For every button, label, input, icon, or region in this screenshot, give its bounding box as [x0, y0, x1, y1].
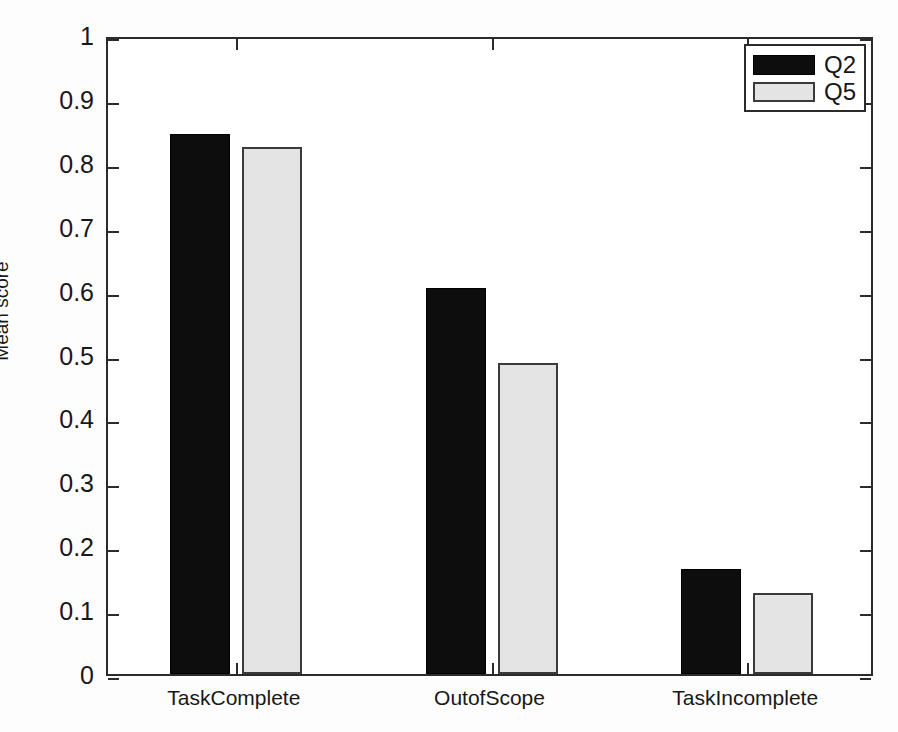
y-tick-label: 0.1: [0, 599, 94, 624]
x-tick-mark: [236, 663, 238, 674]
legend[interactable]: Q2 Q5: [744, 44, 866, 112]
y-tick-label: 0.8: [0, 152, 94, 177]
y-tick-label: 0.9: [0, 88, 94, 113]
x-category-label: TaskIncomplete: [672, 686, 818, 710]
bar-q2-taskincomplete: [681, 569, 741, 674]
legend-item-q2[interactable]: Q2: [753, 51, 856, 78]
y-tick-mark: [860, 39, 871, 41]
y-tick-label: 0: [0, 663, 94, 688]
y-tick-label: 0.5: [0, 344, 94, 369]
x-category-label: OutofScope: [434, 686, 545, 710]
y-tick-label: 0.7: [0, 216, 94, 241]
y-tick-mark: [860, 422, 871, 424]
y-tick-mark: [108, 231, 119, 233]
y-tick-label: 0.3: [0, 471, 94, 496]
bar-q2-outofscope: [426, 288, 486, 674]
y-tick-mark: [860, 550, 871, 552]
bar-q5-taskcomplete: [242, 147, 302, 674]
y-tick-mark: [860, 295, 871, 297]
x-category-label: TaskComplete: [167, 686, 300, 710]
x-tick-mark: [747, 663, 749, 674]
x-tick-mark: [236, 39, 238, 50]
y-tick-label: 1: [0, 24, 94, 49]
y-tick-mark: [108, 167, 119, 169]
y-tick-mark: [860, 614, 871, 616]
y-tick-mark: [860, 678, 871, 680]
x-tick-mark: [492, 39, 494, 50]
legend-swatch-q2: [753, 55, 815, 75]
x-tick-mark: [492, 663, 494, 674]
y-tick-label: 0.4: [0, 407, 94, 432]
y-tick-mark: [860, 231, 871, 233]
legend-swatch-q5: [753, 82, 815, 102]
y-tick-mark: [108, 550, 119, 552]
legend-label-q2: Q2: [824, 53, 856, 77]
bar-q2-taskcomplete: [170, 134, 230, 674]
y-tick-label: 0.6: [0, 280, 94, 305]
legend-item-q5[interactable]: Q5: [753, 78, 856, 105]
bar-chart-figure: Mean score 00.10.20.30.40.50.60.70.80.91…: [0, 0, 898, 732]
y-tick-mark: [108, 39, 119, 41]
y-tick-mark: [108, 295, 119, 297]
y-tick-mark: [108, 359, 119, 361]
y-tick-mark: [108, 678, 119, 680]
y-tick-mark: [860, 359, 871, 361]
y-tick-mark: [108, 614, 119, 616]
bar-q5-outofscope: [498, 363, 558, 674]
y-tick-mark: [108, 103, 119, 105]
y-tick-mark: [860, 167, 871, 169]
y-tick-mark: [108, 486, 119, 488]
y-tick-mark: [860, 486, 871, 488]
bar-q5-taskincomplete: [753, 593, 813, 674]
plot-area: Q2 Q5: [106, 37, 873, 676]
y-tick-label: 0.2: [0, 535, 94, 560]
legend-label-q5: Q5: [824, 80, 856, 104]
y-tick-mark: [108, 422, 119, 424]
